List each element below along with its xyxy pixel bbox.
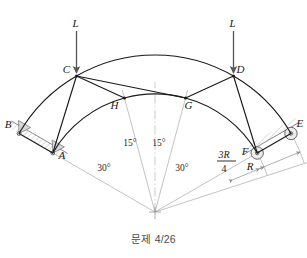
node-label-c: C bbox=[63, 63, 71, 75]
fraction-numerator: 3R bbox=[217, 149, 229, 160]
load-d-label: L bbox=[228, 17, 235, 29]
truss-joint-h bbox=[123, 97, 126, 100]
node-label-e: E bbox=[296, 117, 304, 129]
dimension-arrow-r bbox=[259, 152, 300, 169]
truss-joint-d bbox=[232, 75, 235, 78]
truss-member-ac bbox=[53, 76, 77, 153]
angle-right-30-label: 30° bbox=[175, 163, 189, 173]
node-label-a: A bbox=[57, 149, 65, 161]
truss-member-dg bbox=[186, 76, 234, 98]
truss-member-ch bbox=[77, 76, 125, 98]
dim-r-label: R bbox=[246, 160, 254, 172]
radial-F-construction-line bbox=[155, 149, 264, 212]
node-label-g: G bbox=[185, 99, 193, 111]
radial-H-construction-line bbox=[122, 90, 155, 212]
truss-member-df bbox=[234, 76, 258, 153]
figure-container: LL ABCDEFGH15°15°30°30°3R4R 문제 4/26 bbox=[0, 0, 307, 258]
node-label-b: B bbox=[5, 118, 12, 130]
fraction-denominator: 4 bbox=[222, 163, 227, 174]
dim-arc-r bbox=[294, 138, 305, 163]
node-label-h: H bbox=[109, 99, 119, 111]
truss-diagram: LL ABCDEFGH15°15°30°30°3R4R bbox=[0, 0, 307, 258]
radial-G-construction-line bbox=[155, 90, 188, 212]
truss-member-cg bbox=[77, 76, 186, 98]
load-c-label: L bbox=[71, 17, 78, 29]
load-d: L bbox=[228, 17, 235, 73]
truss-member-cd bbox=[77, 55, 234, 76]
node-label-f: F bbox=[241, 145, 249, 157]
angle-left-15-label: 15° bbox=[123, 138, 137, 148]
truss-joint-c bbox=[75, 75, 78, 78]
dim-three-r-over-four-label: 3R4 bbox=[217, 149, 236, 174]
angle-right-15-label: 15° bbox=[152, 138, 166, 148]
node-label-d: D bbox=[236, 63, 245, 75]
figure-caption: 문제 4/26 bbox=[0, 231, 307, 246]
load-c: L bbox=[71, 17, 78, 73]
angle-left-30-label: 30° bbox=[97, 163, 111, 173]
